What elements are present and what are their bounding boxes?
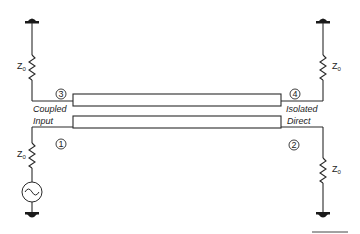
coupler-schematic: Z0 Z0 3 Coupled 4 Isolated Input 1 Direc… (0, 0, 360, 234)
svg-text:4: 4 (292, 89, 297, 99)
ground-icon-bottom-right (316, 212, 330, 218)
ground-icon-top-left (25, 19, 39, 24)
port-3-marker: 3 (56, 89, 66, 99)
port-4-label: Isolated (286, 104, 319, 114)
svg-text:1: 1 (58, 139, 63, 149)
port-2-label: Direct (287, 116, 311, 126)
z0-label-bottom-right: Z0 (332, 164, 342, 175)
port-4-marker: 4 (290, 89, 300, 99)
resistor-top-left (29, 23, 35, 101)
ground-icon-bottom-left (25, 212, 39, 218)
coupled-line (73, 94, 281, 106)
resistor-top-right (320, 23, 326, 101)
port-1-label: Input (33, 116, 54, 126)
ground-icon-top-right (316, 19, 330, 24)
z0-label-top-right: Z0 (332, 61, 342, 72)
svg-text:2: 2 (291, 140, 296, 150)
port-1-marker: 1 (56, 139, 66, 149)
main-line (73, 116, 281, 128)
svg-text:3: 3 (58, 89, 63, 99)
ac-source-icon (22, 182, 42, 202)
port-2-marker: 2 (289, 140, 299, 150)
z0-label-top-left: Z0 (17, 61, 27, 72)
z0-label-bottom-left: Z0 (17, 149, 27, 160)
resistor-bottom-left (29, 127, 35, 182)
port-3-label: Coupled (33, 104, 68, 114)
resistor-bottom-right (320, 127, 326, 212)
